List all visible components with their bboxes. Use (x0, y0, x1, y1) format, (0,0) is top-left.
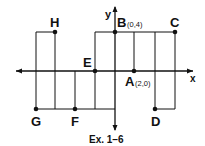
label-f: F (71, 114, 79, 129)
label-a-coord: (2,0) (135, 79, 151, 88)
arrowheads (16, 6, 193, 131)
label-b-coord: (0,4) (127, 20, 143, 29)
x-arrow-left-icon (16, 69, 22, 74)
point-e (93, 69, 98, 74)
axes (16, 7, 193, 130)
point-g (34, 107, 39, 112)
label-c: C (170, 15, 180, 30)
point-f (73, 107, 78, 112)
label-g: G (31, 114, 41, 129)
x-axis-label: x (190, 73, 196, 84)
label-b: B (117, 15, 126, 30)
label-e: E (83, 55, 92, 70)
y-arrow-down-icon (113, 125, 118, 131)
caption: Ex. 1–6 (89, 134, 124, 145)
label-d: D (151, 114, 160, 129)
point-b (113, 30, 118, 35)
point-h (53, 30, 58, 35)
y-axis-label: y (105, 8, 112, 20)
y-arrow-up-icon (113, 6, 118, 12)
coordinate-diagram: y x A (2,0) B (0,4) C D E F G H Ex. 1–6 (0, 0, 205, 146)
label-a: A (125, 74, 135, 89)
labels: y x A (2,0) B (0,4) C D E F G H Ex. 1–6 (31, 8, 196, 145)
point-c (173, 30, 178, 35)
point-a (132, 69, 137, 74)
point-d (153, 107, 158, 112)
label-h: H (50, 15, 59, 30)
